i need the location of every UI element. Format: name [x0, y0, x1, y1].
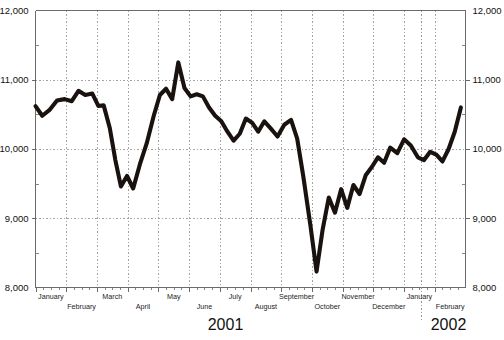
- month-label: July: [229, 292, 242, 301]
- y-axis-tick-label-left: 10,000: [0, 143, 29, 154]
- month-label: December: [372, 302, 406, 311]
- month-label: January: [38, 292, 64, 301]
- month-label: October: [314, 302, 340, 311]
- month-label: February: [436, 302, 465, 311]
- month-label: June: [197, 302, 213, 311]
- y-axis-tick-label-right: 12,000: [473, 5, 502, 16]
- month-label: September: [279, 292, 315, 301]
- y-axis-tick-label-left: 11,000: [0, 74, 28, 85]
- month-label: May: [167, 292, 181, 301]
- line-chart: 8,0009,00010,00011,00012,000 8,0009,0001…: [0, 0, 504, 340]
- chart-container: 8,0009,00010,00011,00012,000 8,0009,0001…: [0, 0, 504, 340]
- month-label: March: [102, 292, 122, 301]
- month-label: April: [136, 302, 151, 311]
- y-axis-tick-label-left: 8,000: [5, 282, 29, 293]
- year-group-label: 2001: [208, 316, 244, 333]
- y-axis-tick-label-right: 8,000: [473, 282, 497, 293]
- month-label: February: [67, 302, 96, 311]
- y-axis-tick-label-right: 11,000: [473, 74, 501, 85]
- year-group-label: 2002: [431, 316, 467, 333]
- y-axis-tick-label-left: 12,000: [0, 5, 29, 16]
- month-label: November: [341, 292, 375, 301]
- y-axis-tick-label-right: 10,000: [473, 143, 502, 154]
- chart-background: [0, 0, 504, 340]
- month-label: August: [255, 302, 277, 311]
- y-axis-tick-label-right: 9,000: [473, 213, 497, 224]
- month-label: January: [407, 292, 433, 301]
- y-axis-tick-label-left: 9,000: [5, 213, 29, 224]
